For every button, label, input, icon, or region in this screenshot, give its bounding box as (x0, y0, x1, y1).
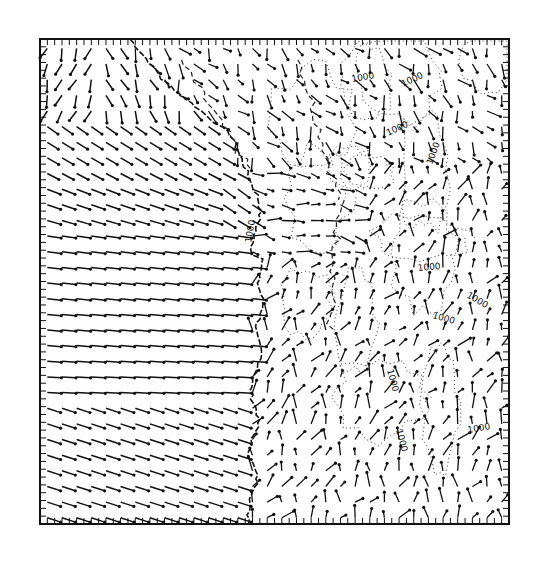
map-frame (40, 39, 509, 524)
contour-label: 1000 (417, 261, 441, 273)
contour-label: 1000 (400, 70, 425, 89)
contour-label: 1000 (243, 219, 257, 244)
contour-label: 1000 (394, 428, 410, 453)
contour-label: 1000 (424, 140, 441, 165)
contour-label: 1000 (385, 119, 410, 138)
wind-vectors (39, 48, 511, 523)
contour-label: 1000 (467, 421, 492, 435)
elevation-contours (268, 41, 507, 476)
wind-vector-map: 1000100010001000100010001000100010001000… (0, 0, 544, 567)
contour-label: 1000 (465, 290, 490, 310)
map-canvas: 1000100010001000100010001000100010001000… (0, 0, 544, 567)
axis-ticks (40, 39, 509, 524)
